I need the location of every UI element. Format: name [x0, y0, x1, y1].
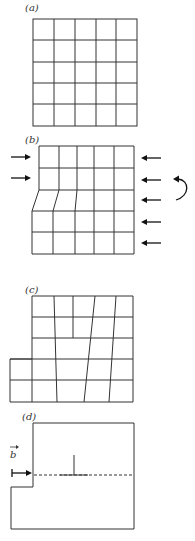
- rotation-arrow-icon: [173, 176, 187, 201]
- panel-d: (d) b: [10, 411, 134, 529]
- right-force-arrows: [141, 155, 161, 246]
- crystal-outline: [11, 423, 134, 529]
- grid-c: [10, 296, 133, 402]
- left-force-arrows: [11, 154, 31, 181]
- panel-b-label: (b): [25, 134, 39, 145]
- burgers-vector-arrow: [12, 469, 32, 477]
- grid-a: [33, 19, 137, 126]
- panel-c-label: (c): [25, 284, 39, 295]
- panel-b: (b): [11, 134, 187, 254]
- burgers-vector-label: b: [10, 445, 19, 460]
- panel-d-label: (d): [22, 411, 36, 422]
- dislocation-diagram: (a) (b): [0, 0, 195, 541]
- panel-c: (c): [10, 284, 133, 402]
- svg-text:b: b: [10, 449, 16, 460]
- panel-a: (a): [25, 2, 137, 126]
- edge-dislocation-symbol: [60, 455, 88, 475]
- panel-a-label: (a): [25, 2, 39, 13]
- grid-b: [32, 146, 134, 254]
